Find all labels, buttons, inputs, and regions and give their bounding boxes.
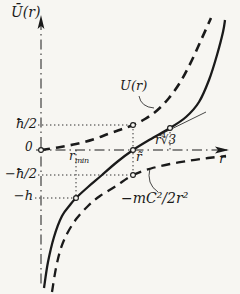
x-axis-label: r [219, 152, 225, 165]
marker-point [131, 173, 136, 178]
marker-point [74, 196, 79, 201]
r-tilde-fourth-root-3-label: r̃∜3 [155, 134, 176, 146]
r-min-subscript: min [75, 156, 89, 165]
figure-container: Ū(r) U(r) ħ/2 0 −ħ/2 −h rmin r̃ r̃∜3 r −… [0, 0, 240, 294]
leader-to-U-curve [139, 96, 154, 108]
tick-label-hbar-half: ħ/2 [10, 117, 37, 130]
y-axis-label: Ū(r) [11, 5, 40, 19]
marker-point [131, 148, 136, 153]
marker-point [39, 148, 44, 153]
lower-curve-label: −mC²/2r² [121, 191, 188, 205]
marker-point [168, 126, 173, 131]
leader-to-lower-curve [149, 168, 158, 192]
r-tilde-label: r̃ [136, 151, 142, 163]
tick-label-neg-h: −h [12, 189, 33, 202]
upper-curve-label: U(r) [120, 79, 147, 92]
origin-label: 0 [25, 141, 33, 153]
potential-plot [0, 0, 240, 294]
tick-label-neg-hbar-half: −ħ/2 [4, 167, 37, 180]
curve-−mC²/2r² [52, 156, 226, 292]
marker-point [131, 123, 136, 128]
r-min-label: rmin [69, 150, 89, 165]
